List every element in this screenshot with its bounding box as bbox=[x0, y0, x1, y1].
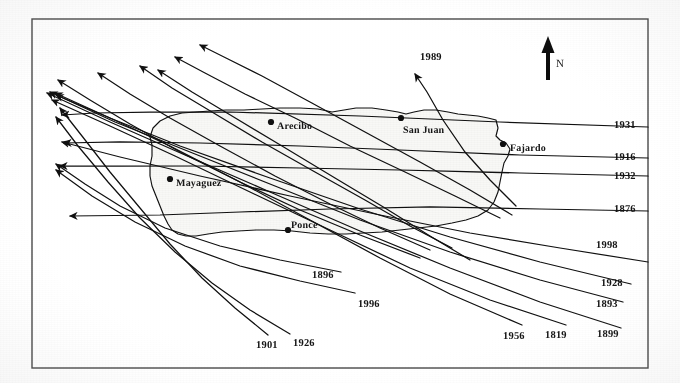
track-year-label-1989: 1989 bbox=[420, 52, 442, 63]
track-year-label-1998: 1998 bbox=[596, 240, 618, 251]
hurricane-track-map-figure: AreciboSan JuanFajardoMayaguezPonce19311… bbox=[0, 0, 680, 383]
north-arrow bbox=[542, 36, 555, 80]
track-year-label-1876: 1876 bbox=[614, 204, 636, 215]
track-year-label-1956: 1956 bbox=[503, 331, 525, 342]
track-year-label-1899: 1899 bbox=[597, 329, 619, 340]
city-label-arecibo: Arecibo bbox=[277, 121, 312, 132]
city-dot-arecibo bbox=[268, 119, 274, 125]
track-year-label-1819: 1819 bbox=[545, 330, 567, 341]
city-dot-mayaguez bbox=[167, 176, 173, 182]
city-label-mayaguez: Mayaguez bbox=[176, 178, 221, 189]
track-year-label-1901: 1901 bbox=[256, 340, 278, 351]
city-label-san-juan: San Juan bbox=[403, 125, 444, 136]
track-year-label-1893: 1893 bbox=[596, 299, 618, 310]
track-year-label-1896: 1896 bbox=[312, 270, 334, 281]
north-arrow-head bbox=[542, 36, 555, 53]
track-year-label-1996: 1996 bbox=[358, 299, 380, 310]
city-dot-fajardo bbox=[500, 141, 506, 147]
north-arrow-label: N bbox=[556, 58, 564, 70]
city-label-fajardo: Fajardo bbox=[510, 143, 546, 154]
map-canvas bbox=[0, 0, 680, 383]
track-year-label-1928: 1928 bbox=[601, 278, 623, 289]
track-year-label-1916: 1916 bbox=[614, 152, 636, 163]
track-year-label-1932: 1932 bbox=[614, 171, 636, 182]
city-dot-san-juan bbox=[398, 115, 404, 121]
track-year-label-1931: 1931 bbox=[614, 120, 636, 131]
hurricane-tracks-group bbox=[47, 45, 648, 335]
city-label-ponce: Ponce bbox=[291, 220, 318, 231]
track-year-label-1926: 1926 bbox=[293, 338, 315, 349]
